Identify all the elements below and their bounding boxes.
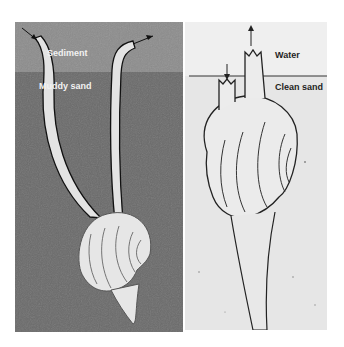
muddy-sand-label: Muddy sand bbox=[39, 81, 92, 91]
clean-sand-label: Clean sand bbox=[275, 82, 323, 92]
water-label: Water bbox=[275, 50, 300, 60]
left-illustration bbox=[15, 22, 183, 332]
right-illustration bbox=[185, 22, 327, 330]
clean-sand-burrow-panel: Water Clean sand bbox=[185, 22, 327, 330]
exhalant-siphon bbox=[245, 50, 265, 98]
sediment-label: Sediment bbox=[47, 48, 88, 58]
muddy-sand-burrow-panel: Sediment Muddy sand bbox=[15, 22, 183, 332]
